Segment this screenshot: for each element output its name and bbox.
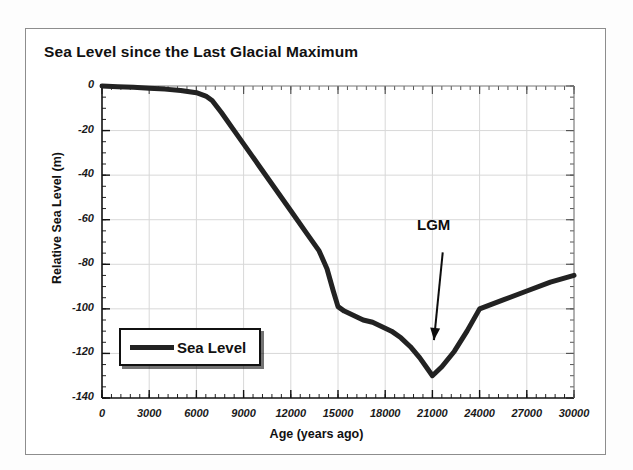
x-tick-label: 30000: [544, 407, 604, 419]
legend-entry-label: Sea Level: [177, 339, 246, 356]
figure-frame: Sea Level since the Last Glacial Maximum…: [25, 28, 606, 455]
y-tick-label: -60: [50, 212, 94, 224]
chart-legend: Sea Level: [119, 328, 261, 366]
y-tick-label: -120: [50, 345, 94, 357]
y-tick-label: -140: [50, 390, 94, 402]
legend-line-swatch: [130, 345, 174, 350]
y-tick-label: -80: [50, 256, 94, 268]
lgm-annotation-label: LGM: [417, 216, 450, 233]
figure-canvas: Sea Level since the Last Glacial Maximum…: [0, 0, 633, 470]
y-tick-label: 0: [50, 78, 94, 90]
x-axis-title: Age (years ago): [26, 427, 607, 441]
y-tick-label: -40: [50, 167, 94, 179]
chart-svg: [26, 29, 607, 456]
y-tick-label: -20: [50, 123, 94, 135]
plot-area: Relative Sea Level (m) Age (years ago) 0…: [26, 29, 607, 456]
y-tick-label: -100: [50, 301, 94, 313]
